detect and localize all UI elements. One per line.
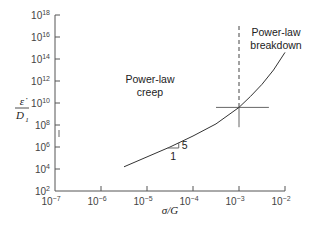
annotation-breakdown-line1: Power-law bbox=[251, 26, 300, 38]
y-axis-label-denominator: D bbox=[15, 109, 24, 121]
x-tick-label: 10−3 bbox=[225, 195, 244, 207]
y-axis-label: ε̇ D 1 bbox=[15, 95, 29, 124]
y-tick-label: 1016 bbox=[31, 31, 50, 43]
slope-run-label: 1 bbox=[170, 150, 176, 162]
y-tick-label: 1014 bbox=[31, 53, 50, 65]
annotation-breakdown-line2: breakdown bbox=[250, 39, 302, 51]
annotation-creep-line2: creep bbox=[137, 86, 163, 98]
chart: 10−710−610−510−410−310−2 102104106108101… bbox=[0, 0, 310, 230]
annotation-creep-line1: Power-law bbox=[125, 73, 174, 85]
y-tick-label: 108 bbox=[35, 119, 50, 131]
y-tick-label: 104 bbox=[35, 163, 50, 175]
y-ticks: 10210410610810101012101410161018 bbox=[31, 9, 60, 197]
y-tick-label: 1010 bbox=[31, 97, 50, 109]
x-axis-label: σ/G bbox=[162, 204, 178, 216]
x-tick-label: 10−2 bbox=[271, 195, 290, 207]
x-tick-label: 10−4 bbox=[179, 195, 198, 207]
x-tick-label: 10−5 bbox=[133, 195, 152, 207]
series-line-creep-rate bbox=[124, 52, 285, 166]
slope-rise-label: 5 bbox=[182, 139, 188, 151]
x-tick-label: 10−6 bbox=[87, 195, 106, 207]
y-axis-label-numerator: ε̇ bbox=[20, 95, 28, 107]
y-tick-label: 1012 bbox=[31, 75, 50, 87]
y-tick-label: 1018 bbox=[31, 9, 50, 21]
y-axis-label-denominator-sub: 1 bbox=[25, 116, 29, 124]
y-tick-label: 106 bbox=[35, 141, 50, 153]
